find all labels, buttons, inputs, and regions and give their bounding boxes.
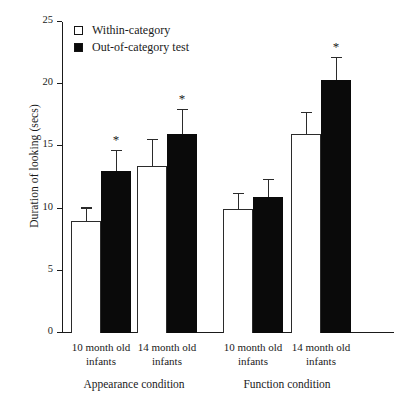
error-bar-cap: [263, 179, 274, 180]
x-axis-group-label: 14 month oldinfants: [273, 340, 369, 368]
error-bar-cap: [331, 57, 342, 58]
chart-figure: Duration of looking (secs) 0510152025 **…: [0, 0, 412, 404]
error-bar-cap: [81, 207, 92, 208]
bar: [167, 134, 197, 333]
x-axis-group-label-line2: infants: [119, 354, 215, 368]
error-bar-cap: [177, 109, 188, 110]
x-axis-group-label-line1: 14 month old: [119, 340, 215, 354]
error-bar-cap: [147, 139, 158, 140]
error-bar: [86, 209, 87, 221]
legend-item-within-category: Within-category: [74, 22, 189, 39]
error-bar: [268, 180, 269, 197]
y-axis-tick-label: 25: [43, 14, 54, 25]
error-bar-cap: [111, 150, 122, 151]
y-axis-tick-label: 15: [43, 138, 54, 149]
legend: Within-category Out-of-category test: [74, 22, 189, 56]
legend-label: Within-category: [92, 23, 170, 38]
bar: [137, 166, 167, 333]
condition-label: Function condition: [197, 378, 377, 390]
y-axis-tick-label: 20: [43, 76, 54, 87]
x-axis-group-label: 14 month oldinfants: [119, 340, 215, 368]
y-axis-tick: 15: [57, 145, 62, 146]
legend-item-out-of-category-test: Out-of-category test: [74, 39, 189, 56]
y-axis-tick: 20: [57, 83, 62, 84]
significance-asterisk: *: [179, 92, 186, 105]
error-bar-cap: [233, 193, 244, 194]
significance-asterisk: *: [113, 133, 120, 146]
filled-square-icon: [74, 43, 83, 52]
y-axis-tick-label: 5: [48, 263, 53, 274]
error-bar: [238, 194, 239, 209]
y-axis-tick: 25: [57, 21, 62, 22]
bar: [71, 221, 101, 333]
y-axis-tick: 10: [57, 208, 62, 209]
y-axis-tick: 0: [57, 332, 62, 333]
error-bar: [336, 58, 337, 80]
bar: [253, 197, 283, 333]
x-axis-group-label-line1: 14 month old: [273, 340, 369, 354]
bar: [321, 80, 351, 333]
y-axis-tick-label: 0: [48, 325, 53, 336]
y-axis-title: Duration of looking (secs): [28, 56, 40, 276]
error-bar: [182, 110, 183, 134]
x-axis-group-label-line2: infants: [273, 354, 369, 368]
error-bar: [152, 140, 153, 166]
y-axis-tick-label: 10: [43, 201, 54, 212]
significance-asterisk: *: [333, 40, 340, 53]
open-square-icon: [74, 26, 83, 35]
y-axis-tick: 5: [57, 270, 62, 271]
error-bar: [306, 113, 307, 134]
bar: [101, 171, 131, 333]
error-bar-cap: [301, 112, 312, 113]
bar: [291, 134, 321, 333]
y-axis-line: [62, 22, 63, 333]
bar: [223, 209, 253, 333]
error-bar: [116, 151, 117, 171]
plot-area: 0510152025 ***: [62, 22, 394, 333]
legend-label: Out-of-category test: [92, 40, 189, 55]
